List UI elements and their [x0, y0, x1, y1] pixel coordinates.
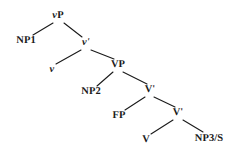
tree-node-Vbar1: V'	[145, 85, 156, 96]
tree-edge-Vbar1-to-Vbar2	[154, 97, 175, 107]
tree-node-vbar: v'	[82, 38, 90, 49]
tree-node-vp2: VP	[111, 60, 125, 71]
tree-node-vp: vP	[52, 11, 63, 22]
tree-node-np3s: NP3/S	[195, 134, 224, 145]
tree-node-Vbar2: V'	[173, 108, 184, 119]
tree-edge-vp2-to-Vbar1	[123, 72, 147, 84]
tree-node-np1: NP1	[16, 36, 36, 47]
tree-edge-Vbar1-to-fp	[125, 97, 145, 110]
tree-node-vp-tail: P	[57, 10, 64, 21]
tree-edge-vbar-to-v_low	[56, 50, 81, 64]
syntax-tree-figure: vPNP1v'vVPNP2V'FPV'VNP3/S	[0, 0, 241, 156]
tree-edge-vp-to-vbar	[64, 23, 82, 37]
tree-node-v_term: V	[142, 135, 150, 146]
tree-edge-vp-to-np1	[33, 23, 53, 35]
tree-edge-vbar-to-vp2	[91, 50, 114, 59]
tree-edge-Vbar2-to-np3s	[183, 120, 203, 132]
tree-edge-vp2-to-np2	[97, 72, 113, 86]
tree-node-fp: FP	[112, 111, 125, 122]
tree-node-v_low: v	[50, 65, 55, 76]
tree-node-np2: NP2	[81, 87, 101, 98]
tree-edge-Vbar2-to-v_term	[151, 120, 173, 134]
